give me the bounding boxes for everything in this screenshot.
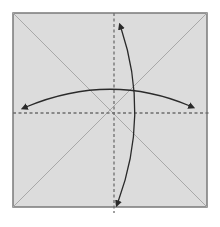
origami-diagram bbox=[0, 0, 220, 227]
